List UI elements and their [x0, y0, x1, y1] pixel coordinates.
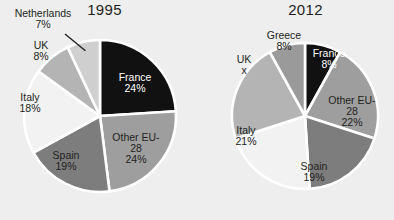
pie-label-italy: Italy21%	[235, 124, 256, 147]
charts-stage: 1995 France24%Other EU-2824%Spain19%Ital…	[0, 0, 394, 220]
pie-svg-2012: France8%Other EU-2822%Spain19%Italy21%UK…	[197, 0, 394, 220]
pie-chart-2012: 2012 France8%Other EU-2822%Spain19%Italy…	[197, 0, 394, 220]
pie-svg-1995: France24%Other EU-2824%Spain19%Italy18%U…	[0, 0, 197, 220]
pie-label-italy: Italy18%	[19, 91, 40, 114]
pie-label-uk: UK8%	[33, 39, 48, 62]
pie-slices-1995	[24, 40, 176, 192]
pie-label-spain: Spain19%	[301, 160, 328, 183]
pie-label-netherlands: Netherlands7%	[15, 7, 72, 30]
pie-label-spain: Spain19%	[53, 149, 80, 172]
pie-chart-1995: 1995 France24%Other EU-2824%Spain19%Ital…	[0, 0, 197, 220]
